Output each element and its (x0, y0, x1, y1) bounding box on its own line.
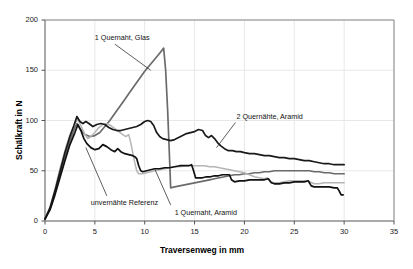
y-tick-label: 150 (16, 65, 38, 74)
y-tick-label: 0 (16, 216, 38, 225)
x-tick-label: 0 (35, 227, 55, 236)
x-tick-label: 30 (334, 227, 354, 236)
x-tick-label: 5 (85, 227, 105, 236)
y-tick-label: 50 (16, 166, 38, 175)
series-label-3: 1 Quernaht, Aramid (175, 208, 237, 217)
y-tick-label: 200 (16, 15, 38, 24)
leader-glas (115, 44, 151, 70)
series-label-1: unvernähte Referenz (91, 198, 158, 207)
x-tick-label: 10 (135, 227, 155, 236)
gridlines (45, 20, 394, 221)
chart-container: 050100150200 05101520253035 1 Quernaht, … (0, 0, 413, 269)
leader-2quernaehte-aramid (217, 123, 236, 148)
x-axis-title: Traversenweg in mm (160, 245, 244, 255)
series-label-0: 1 Quernaht, Glas (95, 33, 150, 42)
x-tick-label: 25 (284, 227, 304, 236)
y-axis-title: Schälkraft in N (14, 100, 24, 160)
x-tick-label: 35 (384, 227, 404, 236)
x-tick-label: 20 (234, 227, 254, 236)
leader-referenz (86, 148, 107, 196)
x-tick-label: 15 (185, 227, 205, 236)
series-label-2: 2 Quernähte, Aramid (236, 112, 302, 121)
